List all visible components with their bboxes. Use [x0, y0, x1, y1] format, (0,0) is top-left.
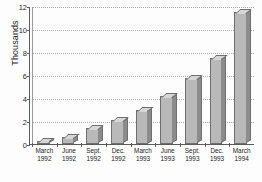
- y-tick-label: 0: [23, 141, 27, 150]
- x-tick-mark: [106, 143, 107, 147]
- bar-chart: Thousands 024681012 March1992June1992Sep…: [0, 0, 262, 182]
- bar: [234, 12, 247, 144]
- x-label-month: March: [32, 147, 57, 155]
- x-label-year: 1992: [106, 155, 131, 163]
- bar: [210, 58, 223, 144]
- x-tick-mark: [32, 143, 33, 147]
- x-tick-mark: [81, 143, 82, 147]
- bar-slot: [58, 7, 83, 144]
- y-tick-label: 10: [19, 26, 27, 35]
- x-tick-label: March1993: [131, 147, 156, 163]
- bar-slot: [181, 7, 206, 144]
- bar: [160, 96, 173, 144]
- x-label-year: 1993: [155, 155, 180, 163]
- y-tick-mark: [27, 145, 30, 146]
- x-label-year: 1993: [131, 155, 156, 163]
- y-tick-mark: [27, 76, 30, 77]
- x-axis-labels: March1992June1992Sept.1992Dec.1992March1…: [32, 147, 254, 177]
- x-label-year: 1993: [205, 155, 230, 163]
- x-tick-label: Sept.1993: [180, 147, 205, 163]
- bar-slot: [82, 7, 107, 144]
- x-tick-mark: [131, 143, 132, 147]
- x-label-month: Dec.: [106, 147, 131, 155]
- x-label-year: 1994: [229, 155, 254, 163]
- y-tick-label: 2: [23, 118, 27, 127]
- x-tick-label: June1992: [57, 147, 82, 163]
- y-tick-mark: [27, 122, 30, 123]
- x-tick-label: March1994: [229, 147, 254, 163]
- x-label-month: Sept.: [81, 147, 106, 155]
- x-tick-label: March1992: [32, 147, 57, 163]
- x-tick-label: June1993: [155, 147, 180, 163]
- x-tick-mark: [155, 143, 156, 147]
- bar-slot: [107, 7, 132, 144]
- x-label-month: June: [57, 147, 82, 155]
- x-tick-mark: [57, 143, 58, 147]
- x-label-month: June: [155, 147, 180, 155]
- x-tick-mark: [229, 143, 230, 147]
- bar: [86, 128, 99, 144]
- x-label-month: March: [131, 147, 156, 155]
- y-tick-label: 6: [23, 72, 27, 81]
- y-tick-mark: [27, 99, 30, 100]
- x-label-year: 1993: [180, 155, 205, 163]
- x-label-year: 1992: [32, 155, 57, 163]
- bar-series: [33, 7, 254, 144]
- x-label-year: 1992: [81, 155, 106, 163]
- bar: [185, 78, 198, 144]
- x-tick-mark: [180, 143, 181, 147]
- y-tick-label: 8: [23, 49, 27, 58]
- x-label-month: Dec.: [205, 147, 230, 155]
- x-label-year: 1992: [57, 155, 82, 163]
- x-tick-label: Sept.1992: [81, 147, 106, 163]
- bar-slot: [132, 7, 157, 144]
- bar: [111, 120, 124, 144]
- x-tick-label: Dec.1993: [205, 147, 230, 163]
- bar: [37, 141, 50, 144]
- bar-slot: [33, 7, 58, 144]
- bar: [62, 137, 75, 144]
- y-tick-mark: [27, 7, 30, 8]
- plot-area: 024681012: [29, 7, 254, 145]
- bar-slot: [230, 7, 255, 144]
- y-axis-title: Thousands: [10, 0, 20, 86]
- x-label-month: Sept.: [180, 147, 205, 155]
- x-label-month: March: [229, 147, 254, 155]
- y-tick-label: 12: [19, 3, 27, 12]
- y-tick-mark: [27, 53, 30, 54]
- x-tick-mark: [205, 143, 206, 147]
- y-tick-label: 4: [23, 95, 27, 104]
- bar-slot: [156, 7, 181, 144]
- x-tick-label: Dec.1992: [106, 147, 131, 163]
- y-tick-mark: [27, 30, 30, 31]
- bar-slot: [206, 7, 231, 144]
- bar: [136, 110, 149, 145]
